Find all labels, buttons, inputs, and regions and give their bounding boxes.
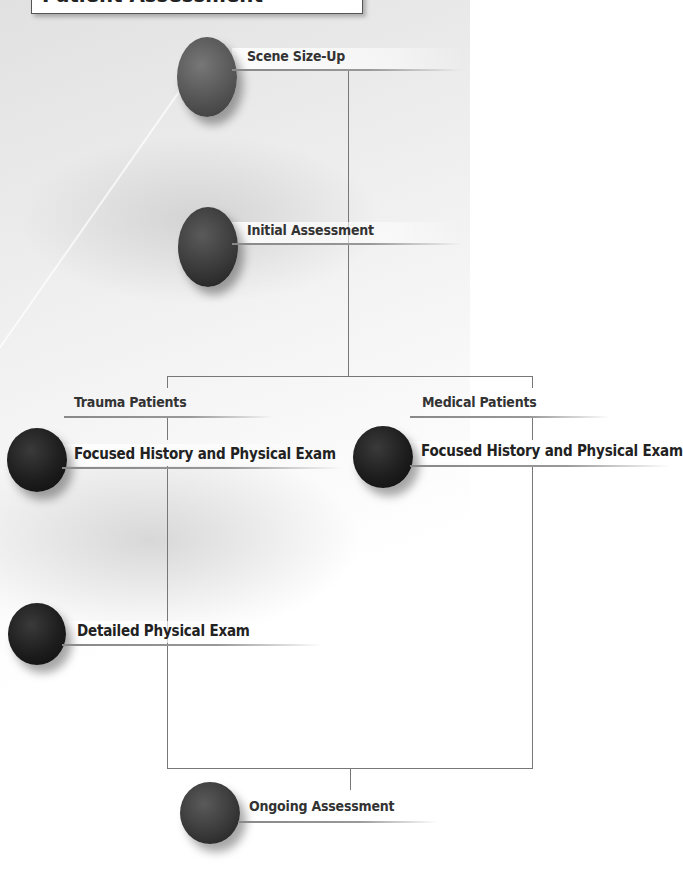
node-underline <box>62 467 342 469</box>
node-circle-icon <box>7 428 67 492</box>
node-circle-icon <box>178 207 238 287</box>
connector-ongoing-vertical <box>350 768 351 790</box>
connector-medical-vertical <box>532 466 533 768</box>
node-initial-assessment: Initial Assessment <box>247 222 374 238</box>
node-trauma-patients: Trauma Patients <box>74 394 186 410</box>
title-box: Patient Assessment <box>31 0 363 14</box>
node-circle-icon <box>177 37 237 117</box>
background-photo <box>0 0 470 760</box>
node-underline <box>64 416 274 418</box>
connector-trauma-vertical <box>167 466 168 768</box>
node-medical-focused-exam: Focused History and Physical Exam <box>421 442 683 460</box>
connector-medical-top <box>532 376 533 388</box>
node-underline <box>410 416 610 418</box>
node-ongoing-assessment: Ongoing Assessment <box>249 798 394 814</box>
page-title: Patient Assessment <box>42 0 263 7</box>
node-underline <box>232 243 462 245</box>
node-trauma-focused-exam: Focused History and Physical Exam <box>74 445 336 463</box>
node-medical-patients: Medical Patients <box>422 394 537 410</box>
node-circle-icon <box>353 426 413 488</box>
node-underline <box>410 465 670 467</box>
node-circle-icon <box>8 603 66 665</box>
node-underline <box>62 644 322 646</box>
connector-branch-horizontal <box>167 376 533 377</box>
node-detailed-exam: Detailed Physical Exam <box>77 622 250 640</box>
node-circle-icon <box>180 782 240 844</box>
node-underline <box>232 69 462 71</box>
connector-trauma-mid <box>167 418 168 440</box>
node-scene-size-up: Scene Size-Up <box>247 48 345 64</box>
connector-medical-mid <box>532 418 533 440</box>
connector-trauma-top <box>167 376 168 388</box>
node-underline <box>238 821 438 823</box>
